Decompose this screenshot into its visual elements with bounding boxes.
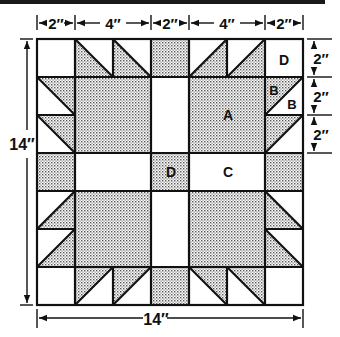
piece-label-a: A [223, 107, 233, 123]
piece-label-c: C [223, 164, 233, 180]
dim-right-3: 2″ [313, 126, 329, 143]
piece-label-d-center: D [166, 164, 176, 180]
dim-top-2: 4″ [105, 15, 121, 32]
piece-label-b-shaded: B [269, 83, 278, 98]
piece-label-d-corner: D [279, 52, 289, 68]
dim-right-1: 2″ [313, 50, 329, 67]
dim-top-1: 2″ [48, 15, 64, 32]
dim-top-4: 4″ [219, 15, 235, 32]
dim-right-2: 2″ [313, 88, 329, 105]
left-dimension-line [20, 39, 33, 305]
quilt-block-diagram: D B B A D C 2″ 4″ 2″ 4″ 2″ 2 [0, 0, 340, 337]
dim-bottom-total: 14″ [143, 311, 169, 328]
bottom-dimension-line [37, 309, 303, 328]
piece-label-b-white: B [287, 97, 296, 112]
dim-top-3: 2″ [162, 15, 178, 32]
dim-top-5: 2″ [276, 15, 292, 32]
dim-left-total: 14″ [9, 136, 35, 153]
